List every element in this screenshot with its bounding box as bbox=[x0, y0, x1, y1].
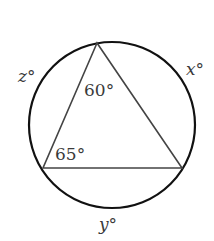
geometry-diagram: 60° 65° z° x° y° bbox=[0, 0, 214, 241]
arc-label-z: z° bbox=[17, 66, 35, 86]
arc-label-y: y° bbox=[98, 214, 117, 234]
circle bbox=[29, 42, 195, 208]
angle-label-left: 65° bbox=[55, 144, 85, 164]
arc-label-x: x° bbox=[186, 59, 204, 79]
angle-label-top: 60° bbox=[84, 80, 114, 100]
